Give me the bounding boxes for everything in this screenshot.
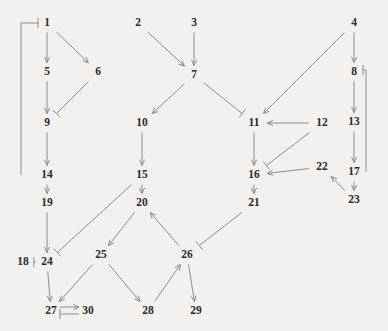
edge-7-to-10-segment xyxy=(152,84,184,114)
graph-node-22: 22 xyxy=(316,161,328,173)
graph-node-8: 8 xyxy=(351,66,357,78)
graph-node-17: 17 xyxy=(348,166,360,178)
edge-26-to-20-segment xyxy=(150,213,179,246)
edge-12-to-16-head xyxy=(263,161,269,169)
graph-node-27: 27 xyxy=(45,305,57,317)
graph-node-10: 10 xyxy=(136,117,148,129)
graph-node-21: 21 xyxy=(248,197,260,209)
graph-node-12: 12 xyxy=(316,117,328,129)
edge-25-to-27-segment xyxy=(59,265,92,302)
graph-node-4: 4 xyxy=(351,17,357,29)
graph-node-14: 14 xyxy=(41,169,53,181)
graph-node-24: 24 xyxy=(41,256,53,268)
edge-26-to-29-segment xyxy=(189,265,195,302)
graph-node-2: 2 xyxy=(135,17,141,29)
edge-12-to-16-segment xyxy=(266,133,309,166)
edge-15-to-24-segment xyxy=(57,185,131,253)
graph-canvas: 1234567891011121314151617181920212223242… xyxy=(0,0,388,331)
edge-23-to-22-segment xyxy=(331,177,345,191)
edge-28-to-26-segment xyxy=(155,265,181,302)
edge-21-to-26-head xyxy=(196,241,202,249)
edge-layer xyxy=(0,0,388,331)
graph-node-20: 20 xyxy=(136,197,148,209)
edge-2-to-7-segment xyxy=(148,32,185,66)
graph-node-5: 5 xyxy=(44,66,50,78)
graph-node-15: 15 xyxy=(136,169,148,181)
edge-20-to-25-segment xyxy=(108,213,134,246)
graph-node-3: 3 xyxy=(191,17,197,29)
graph-node-1: 1 xyxy=(44,17,50,29)
edge-22-to-16-segment xyxy=(267,169,309,174)
edge-1-to-6-segment xyxy=(57,32,89,63)
edge-7-to-11-head xyxy=(239,109,245,117)
graph-node-13: 13 xyxy=(348,116,360,128)
edge-21-to-26-segment xyxy=(199,213,242,246)
graph-node-18: 18 xyxy=(17,256,29,268)
graph-node-30: 30 xyxy=(82,305,94,317)
graph-node-16: 16 xyxy=(248,169,260,181)
graph-node-28: 28 xyxy=(142,305,154,317)
graph-node-26: 26 xyxy=(181,249,193,261)
graph-node-9: 9 xyxy=(44,117,50,129)
graph-node-7: 7 xyxy=(191,69,197,81)
edge-7-to-11-segment xyxy=(204,83,243,114)
graph-node-19: 19 xyxy=(41,197,53,209)
graph-node-11: 11 xyxy=(249,117,260,129)
edge-4-to-11-segment xyxy=(264,33,345,114)
graph-node-29: 29 xyxy=(190,305,202,317)
edge-6-to-9-segment xyxy=(57,82,89,114)
graph-node-6: 6 xyxy=(95,66,101,78)
graph-node-25: 25 xyxy=(95,249,107,261)
graph-node-23: 23 xyxy=(348,194,360,206)
edge-25-to-28-segment xyxy=(109,265,140,302)
